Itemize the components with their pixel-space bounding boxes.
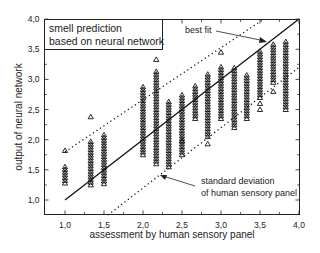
legend-line-1: smell prediction xyxy=(49,22,122,34)
data-points xyxy=(62,39,288,187)
x-tick-label: 1,5 xyxy=(98,220,110,230)
x-tick-label: 3,5 xyxy=(254,220,266,230)
y-tick-label: 4,0 xyxy=(28,14,40,24)
y-tick-label: 3,5 xyxy=(28,44,40,54)
y-tick-label: 2,5 xyxy=(28,105,40,115)
legend-line-2: based on neural network xyxy=(49,35,165,47)
y-axis-label: output of neural network xyxy=(13,62,24,170)
legend-box: smell prediction based on neural network xyxy=(45,20,165,50)
x-tick-label: 4,0 xyxy=(293,220,305,230)
x-tick-label: 2,0 xyxy=(137,220,149,230)
y-tick-label: 2,0 xyxy=(28,135,40,145)
x-tick-label: 1,0 xyxy=(59,220,71,230)
x-tick-label: 3,0 xyxy=(215,220,227,230)
x-tick-label: 2,5 xyxy=(176,220,188,230)
y-tick-label: 1,0 xyxy=(28,195,40,205)
scatter-chart: 1,01,01,51,52,02,02,52,53,03,03,53,54,04… xyxy=(0,0,320,253)
y-tick-label: 3,0 xyxy=(28,74,40,84)
y-tick-label: 1,5 xyxy=(28,165,40,175)
annotation-std-dev-1: standard deviation xyxy=(201,176,275,186)
annotation-std-dev-2: of human sensory panel xyxy=(201,188,297,198)
x-axis-label: assessment by human sensory panel xyxy=(89,229,254,240)
annotation-best-fit: best fit xyxy=(185,25,212,35)
